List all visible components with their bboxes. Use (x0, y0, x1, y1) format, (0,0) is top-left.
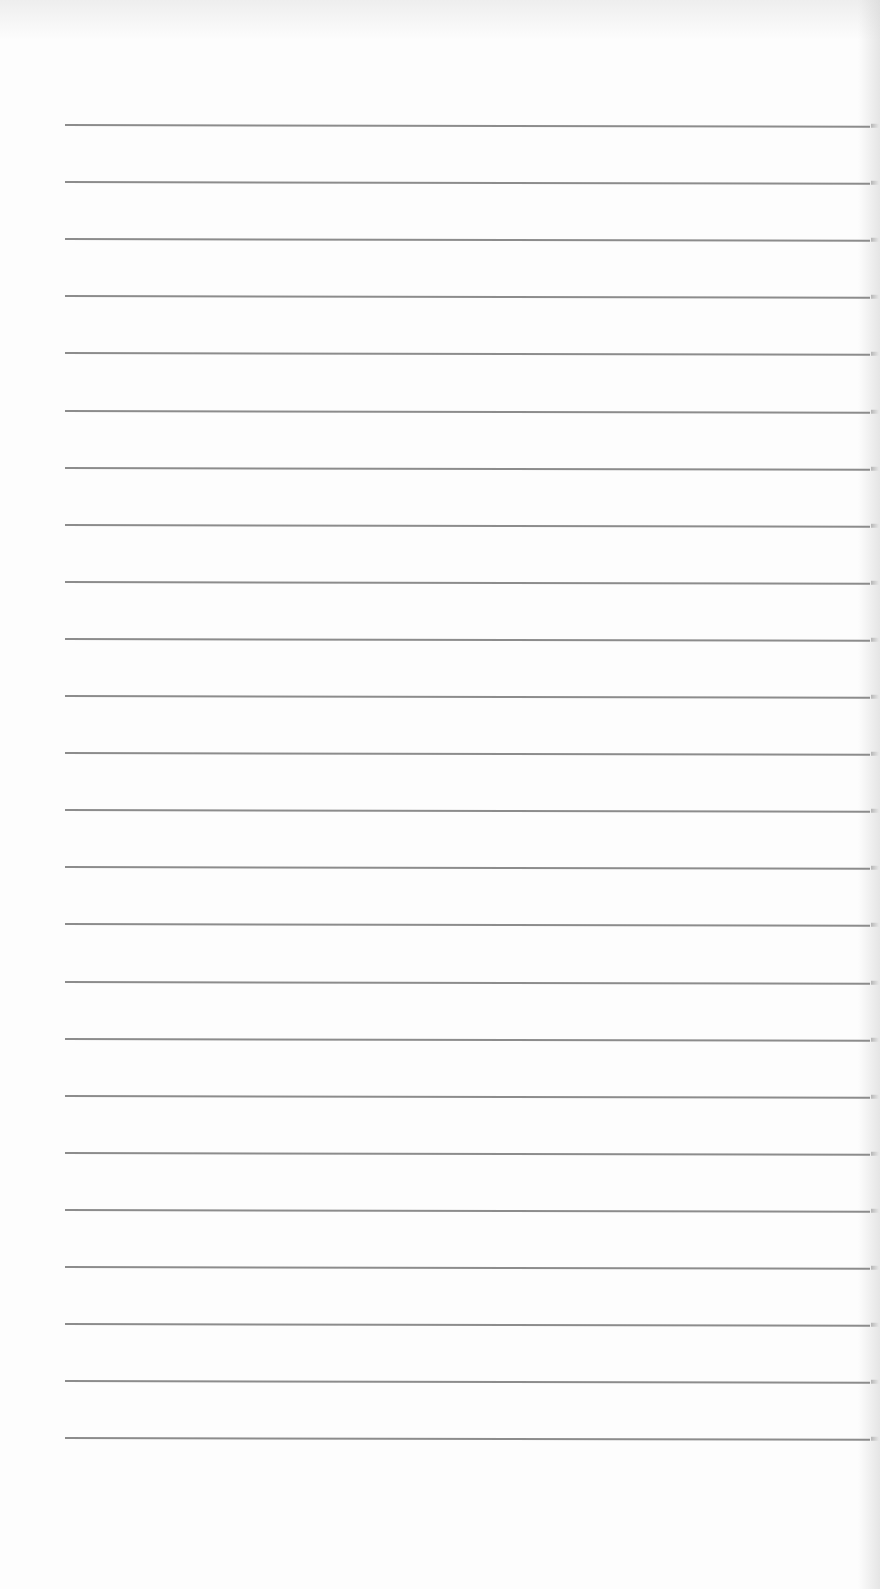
ruled-line (65, 1437, 870, 1440)
ruled-line (65, 1323, 870, 1326)
edge-tick-mark (871, 1380, 879, 1384)
ruled-line (65, 1266, 870, 1269)
lined-paper-sheet (0, 0, 880, 1589)
edge-tick-mark (871, 238, 879, 242)
ruled-line (65, 638, 870, 641)
ruled-line (65, 1209, 870, 1212)
ruled-line (65, 981, 870, 984)
edge-tick-mark (871, 1094, 879, 1098)
edge-tick-mark (871, 580, 879, 584)
edge-tick-mark (871, 809, 879, 813)
ruled-line (65, 181, 870, 184)
ruled-line (65, 352, 870, 355)
ruled-lines (0, 0, 880, 1589)
edge-tick-mark (871, 295, 879, 299)
ruled-line (65, 467, 870, 470)
ruled-line (65, 752, 870, 755)
edge-tick-mark (871, 866, 879, 870)
ruled-line (65, 1038, 870, 1041)
ruled-line (65, 124, 870, 127)
ruled-line (65, 581, 870, 584)
edge-tick-mark (871, 466, 879, 470)
edge-tick-mark (871, 695, 879, 699)
ruled-line (65, 1095, 870, 1098)
ruled-line (65, 809, 870, 812)
ruled-line (65, 1152, 870, 1155)
ruled-line (65, 695, 870, 698)
edge-tick-mark (871, 181, 879, 185)
edge-tick-mark (871, 1151, 879, 1155)
ruled-line (65, 923, 870, 926)
edge-tick-mark (871, 523, 879, 527)
edge-tick-mark (871, 409, 879, 413)
edge-tick-mark (871, 923, 879, 927)
edge-tick-mark (871, 752, 879, 756)
edge-tick-mark (871, 1037, 879, 1041)
ruled-line (65, 238, 870, 241)
ruled-line (65, 410, 870, 413)
edge-tick-mark (871, 1437, 879, 1441)
edge-tick-mark (871, 352, 879, 356)
ruled-line (65, 1380, 870, 1383)
ruled-line (65, 866, 870, 869)
ruled-line (65, 295, 870, 298)
edge-tick-mark (871, 638, 879, 642)
ruled-line (65, 524, 870, 527)
edge-tick-mark (871, 1323, 879, 1327)
edge-tick-mark (871, 1209, 879, 1213)
edge-tick-mark (871, 1266, 879, 1270)
edge-tick-mark (871, 980, 879, 984)
edge-tick-mark (871, 124, 879, 128)
